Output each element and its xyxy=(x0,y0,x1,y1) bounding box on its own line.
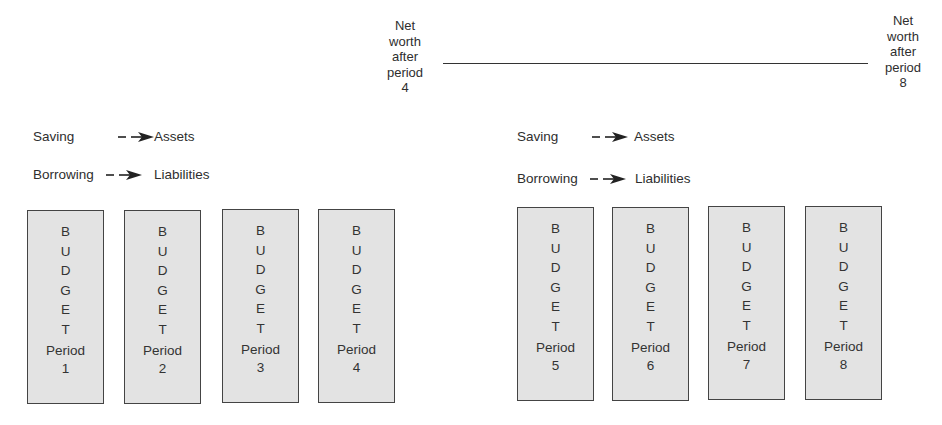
letter: D xyxy=(709,257,784,277)
letter: G xyxy=(223,280,298,300)
flow-source: Saving xyxy=(33,128,74,146)
letter: U xyxy=(613,239,688,259)
budget-box-period-8: B U D G E T Period 8 xyxy=(805,206,882,400)
label-line: period xyxy=(873,60,933,76)
budget-box-period-4: B U D G E T Period 4 xyxy=(318,209,395,403)
flow-borrowing-liabilities-right: Borrowing Liabilities xyxy=(517,170,717,188)
letter: E xyxy=(709,296,784,316)
budget-box-period-2: B U D G E T Period 2 xyxy=(124,210,201,404)
letter: B xyxy=(709,218,784,238)
letter: D xyxy=(806,257,881,277)
period-label: Period 3 xyxy=(223,341,298,377)
budget-vertical-text: B U D G E T xyxy=(125,222,200,339)
letter: B xyxy=(223,221,298,241)
label-line: worth xyxy=(873,29,933,45)
budget-vertical-text: B U D G E T xyxy=(223,221,298,338)
label-line: after xyxy=(873,44,933,60)
flow-source: Borrowing xyxy=(517,170,578,188)
letter: E xyxy=(319,299,394,319)
letter: D xyxy=(28,261,103,281)
period-label: Period 4 xyxy=(319,341,394,377)
letter: T xyxy=(709,316,784,336)
letter: B xyxy=(613,219,688,239)
label-line: 4 xyxy=(375,80,435,96)
period-word: Period xyxy=(125,342,200,360)
period-label: Period 6 xyxy=(613,339,688,375)
period-label: Period 5 xyxy=(518,339,593,375)
period-number: 7 xyxy=(709,356,784,374)
letter: T xyxy=(806,316,881,336)
budget-vertical-text: B U D G E T xyxy=(518,219,593,336)
letter: D xyxy=(518,258,593,278)
period-word: Period xyxy=(709,338,784,356)
label-line: after xyxy=(375,49,435,65)
net-worth-label-period-4: Net worth after period 4 xyxy=(375,18,435,96)
period-label: Period 1 xyxy=(28,342,103,378)
budget-vertical-text: B U D G E T xyxy=(28,222,103,339)
flow-borrowing-liabilities-left: Borrowing Liabilities xyxy=(33,166,233,184)
letter: T xyxy=(28,320,103,340)
letter: B xyxy=(319,221,394,241)
period-number: 6 xyxy=(613,357,688,375)
budget-vertical-text: B U D G E T xyxy=(613,219,688,336)
letter: G xyxy=(518,278,593,298)
dashed-arrow-icon xyxy=(592,128,638,146)
period-word: Period xyxy=(518,339,593,357)
label-line: 8 xyxy=(873,75,933,91)
dashed-arrow-icon xyxy=(590,170,636,188)
period-word: Period xyxy=(613,339,688,357)
letter: T xyxy=(125,320,200,340)
flow-target: Liabilities xyxy=(635,170,691,188)
letter: U xyxy=(709,238,784,258)
budget-box-period-1: B U D G E T Period 1 xyxy=(27,210,104,404)
letter: G xyxy=(613,278,688,298)
flow-target: Assets xyxy=(634,128,675,146)
flow-saving-assets-left: Saving Assets xyxy=(33,128,233,146)
letter: B xyxy=(518,219,593,239)
budget-box-period-3: B U D G E T Period 3 xyxy=(222,209,299,403)
letter: U xyxy=(806,238,881,258)
letter: T xyxy=(319,319,394,339)
letter: E xyxy=(518,297,593,317)
letter: G xyxy=(319,280,394,300)
letter: D xyxy=(125,261,200,281)
label-line: period xyxy=(375,65,435,81)
letter: E xyxy=(613,297,688,317)
letter: U xyxy=(518,239,593,259)
net-worth-label-period-8: Net worth after period 8 xyxy=(873,13,933,91)
period-label: Period 2 xyxy=(125,342,200,378)
letter: D xyxy=(613,258,688,278)
budget-box-period-7: B U D G E T Period 7 xyxy=(708,206,785,400)
letter: U xyxy=(125,242,200,262)
flow-saving-assets-right: Saving Assets xyxy=(517,128,717,146)
letter: E xyxy=(125,300,200,320)
letter: G xyxy=(125,281,200,301)
period-number: 5 xyxy=(518,357,593,375)
label-line: Net xyxy=(375,18,435,34)
letter: B xyxy=(125,222,200,242)
letter: U xyxy=(28,242,103,262)
period-number: 3 xyxy=(223,359,298,377)
letter: B xyxy=(806,218,881,238)
period-number: 2 xyxy=(125,360,200,378)
dashed-arrow-icon xyxy=(106,166,152,184)
letter: G xyxy=(28,281,103,301)
letter: G xyxy=(709,277,784,297)
letter: D xyxy=(223,260,298,280)
budget-box-period-5: B U D G E T Period 5 xyxy=(517,207,594,401)
budget-vertical-text: B U D G E T xyxy=(319,221,394,338)
period-label: Period 8 xyxy=(806,338,881,374)
letter: U xyxy=(319,241,394,261)
period-word: Period xyxy=(28,342,103,360)
flow-target: Liabilities xyxy=(154,166,210,184)
letter: E xyxy=(806,296,881,316)
flow-source: Saving xyxy=(517,128,558,146)
letter: E xyxy=(28,300,103,320)
budget-vertical-text: B U D G E T xyxy=(709,218,784,335)
letter: E xyxy=(223,299,298,319)
letter: G xyxy=(806,277,881,297)
net-worth-timeline xyxy=(443,63,868,64)
flow-target: Assets xyxy=(154,128,195,146)
budget-box-period-6: B U D G E T Period 6 xyxy=(612,207,689,401)
label-line: worth xyxy=(375,34,435,50)
